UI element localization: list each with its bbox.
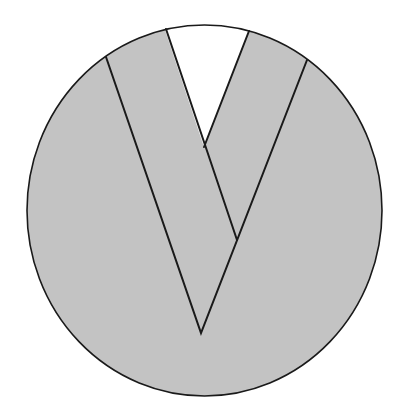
v-circle-diagram (0, 0, 408, 416)
